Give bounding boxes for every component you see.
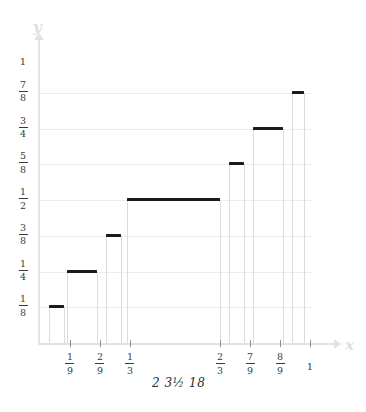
gridline-horizontal — [40, 93, 312, 94]
step-3-8 — [106, 234, 121, 237]
step-1-2 — [127, 198, 220, 201]
step-5-8 — [229, 162, 244, 165]
x-axis-tick-mark — [70, 340, 71, 347]
step-drop-line — [244, 164, 245, 343]
x-axis-tick-mark — [310, 340, 311, 347]
x-axis-tick-mark — [220, 340, 221, 347]
x-tick-label: 1 — [299, 355, 321, 374]
y-tick-label: 14 — [12, 259, 34, 285]
step-1-4 — [67, 270, 97, 273]
step-1-8 — [49, 305, 64, 308]
x-axis-label: x — [345, 336, 354, 354]
gridline-horizontal — [40, 307, 312, 308]
x-tick-label: 13 — [119, 352, 141, 378]
x-axis-tick-mark — [280, 340, 281, 347]
x-tick-label: 19 — [59, 352, 81, 378]
figure-caption: 2 3½ 18 — [152, 376, 205, 390]
x-tick-label: 79 — [239, 352, 261, 378]
step-drop-line — [220, 200, 221, 343]
step-drop-line — [106, 236, 107, 343]
step-drop-line — [121, 236, 122, 343]
x-axis-tick-mark — [100, 340, 101, 347]
step-3-4 — [253, 127, 283, 130]
step-drop-line — [253, 129, 254, 344]
gridline-horizontal — [40, 236, 312, 237]
y-tick-label: 12 — [12, 187, 34, 213]
y-tick-label: 1 — [12, 50, 34, 69]
x-axis-tick-mark — [130, 340, 131, 347]
x-axis-tick-mark — [250, 340, 251, 347]
step-drop-line — [67, 272, 68, 344]
gridline-horizontal — [40, 164, 312, 165]
y-axis-line — [38, 38, 40, 344]
step-drop-line — [49, 307, 50, 343]
y-tick-label: 38 — [12, 223, 34, 249]
step-drop-line — [292, 93, 293, 343]
y-tick-label: 58 — [12, 151, 34, 177]
x-tick-label: 23 — [209, 352, 231, 378]
y-tick-label: 34 — [12, 116, 34, 142]
x-axis-line — [38, 343, 338, 345]
chart-canvas: y x 178345812381418 1929132379891 2 3½ 1… — [0, 0, 366, 412]
x-axis-arrow-icon — [334, 339, 341, 349]
x-tick-label: 29 — [89, 352, 111, 378]
step-drop-line — [304, 93, 305, 343]
x-tick-label: 89 — [269, 352, 291, 378]
step-drop-line — [97, 272, 98, 344]
step-drop-line — [283, 129, 284, 344]
step-drop-line — [64, 307, 65, 343]
step-drop-line — [229, 164, 230, 343]
y-tick-label: 18 — [12, 294, 34, 320]
y-tick-label: 78 — [12, 80, 34, 106]
y-axis-label: y — [33, 18, 42, 36]
step-7-8 — [292, 91, 304, 94]
step-drop-line — [127, 200, 128, 343]
